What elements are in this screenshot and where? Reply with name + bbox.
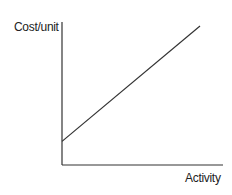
cost-per-unit-line — [62, 26, 200, 141]
x-axis-label: Activity — [185, 171, 221, 185]
y-axis-label: Cost/unit — [14, 20, 59, 34]
cost-activity-chart: Cost/unit Activity — [0, 0, 232, 195]
